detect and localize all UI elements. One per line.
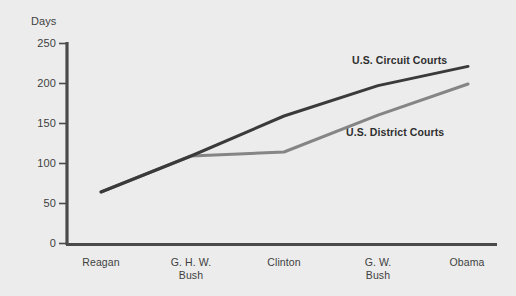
- plot-area: [0, 0, 516, 296]
- line-chart: Days 250 200 150 100 50 0 Reagan G. H. W…: [0, 0, 516, 296]
- series-line-circuit-courts: [101, 66, 468, 192]
- series-line-district-courts: [101, 84, 468, 192]
